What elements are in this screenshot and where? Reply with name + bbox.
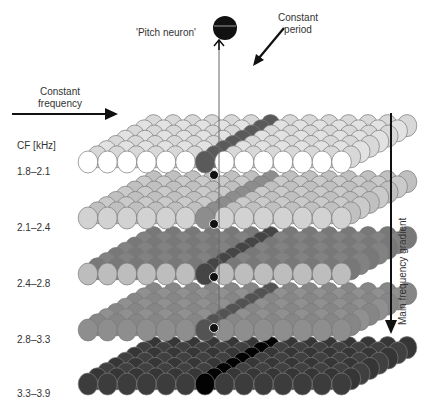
- neuron: [312, 263, 332, 285]
- neuron: [78, 207, 98, 229]
- neuron: [137, 263, 157, 285]
- neuron: [117, 373, 137, 395]
- cf-label-3: 2.4–2.8: [17, 278, 50, 290]
- connection-node: [210, 171, 219, 180]
- neuron: [273, 373, 293, 395]
- neuron: [78, 373, 98, 395]
- neuron: [117, 207, 137, 229]
- main-gradient-arrowhead: [385, 320, 397, 334]
- neuron: [332, 319, 352, 341]
- neuron: [234, 263, 254, 285]
- neuron: [273, 151, 293, 173]
- neuron: [293, 151, 313, 173]
- neuron: [176, 207, 196, 229]
- constant-frequency-arrowhead: [105, 108, 118, 120]
- neuron: [156, 373, 176, 395]
- neuron: [98, 263, 118, 285]
- neuron: [234, 207, 254, 229]
- neuron: [78, 263, 98, 285]
- connection-node: [210, 273, 219, 282]
- neuron: [98, 151, 118, 173]
- neuron: [234, 319, 254, 341]
- neuron: [254, 373, 274, 395]
- main-frequency-gradient-label: Main frequency gradient: [397, 218, 408, 325]
- neuron: [254, 263, 274, 285]
- neuron: [332, 151, 352, 173]
- cf-label-1: 1.8–2.1: [17, 166, 50, 178]
- neuron: [117, 151, 137, 173]
- neuron: [176, 319, 196, 341]
- neuron: [215, 151, 235, 173]
- cf-label-4: 2.8–3.3: [17, 334, 50, 346]
- neuron: [293, 207, 313, 229]
- neuron: [195, 151, 215, 173]
- constant-frequency-label: Constant frequency: [30, 86, 90, 110]
- neuron: [293, 263, 313, 285]
- neuron: [332, 373, 352, 395]
- neuron: [195, 373, 215, 395]
- pitch-neuron-label: 'Pitch neuron': [136, 27, 196, 39]
- neuron: [312, 319, 332, 341]
- neuron: [273, 263, 293, 285]
- neuron: [312, 207, 332, 229]
- constant-period-label: Constant period: [268, 12, 328, 36]
- neuron: [234, 151, 254, 173]
- neuron: [312, 151, 332, 173]
- connection-node: [210, 220, 219, 229]
- neuron: [137, 151, 157, 173]
- neuron: [273, 319, 293, 341]
- neuron: [176, 263, 196, 285]
- neuron: [293, 373, 313, 395]
- neuron: [273, 207, 293, 229]
- neuron: [156, 207, 176, 229]
- neuron: [254, 319, 274, 341]
- constant-period-arrowhead: [253, 54, 264, 66]
- cf-label-2: 2.1–2.4: [17, 222, 50, 234]
- neuron: [137, 319, 157, 341]
- neuron: [117, 319, 137, 341]
- neuron: [254, 207, 274, 229]
- neuron: [98, 319, 118, 341]
- connection-node: [210, 324, 219, 333]
- pitch-neuron: [213, 16, 237, 40]
- neuron: [215, 373, 235, 395]
- neuron: [117, 263, 137, 285]
- cf-header: CF [kHz]: [17, 140, 56, 152]
- neuron: [234, 373, 254, 395]
- neuron: [254, 151, 274, 173]
- neuron: [137, 373, 157, 395]
- pitch-neuron-diagram: 'Pitch neuron' Constant period Constant …: [0, 0, 422, 405]
- neuron: [156, 151, 176, 173]
- neuron: [156, 263, 176, 285]
- neuron: [332, 207, 352, 229]
- neuron: [332, 263, 352, 285]
- neuron: [137, 207, 157, 229]
- neuron: [98, 207, 118, 229]
- neuron: [176, 373, 196, 395]
- cf-label-5: 3.3–3.9: [17, 388, 50, 400]
- neuron: [78, 151, 98, 173]
- neuron: [78, 319, 98, 341]
- pitch-arrowhead: [214, 40, 224, 50]
- neuron: [293, 319, 313, 341]
- neuron: [156, 319, 176, 341]
- layered-neuron-array: [0, 0, 422, 405]
- neuron: [98, 373, 118, 395]
- neuron: [176, 151, 196, 173]
- neuron: [312, 373, 332, 395]
